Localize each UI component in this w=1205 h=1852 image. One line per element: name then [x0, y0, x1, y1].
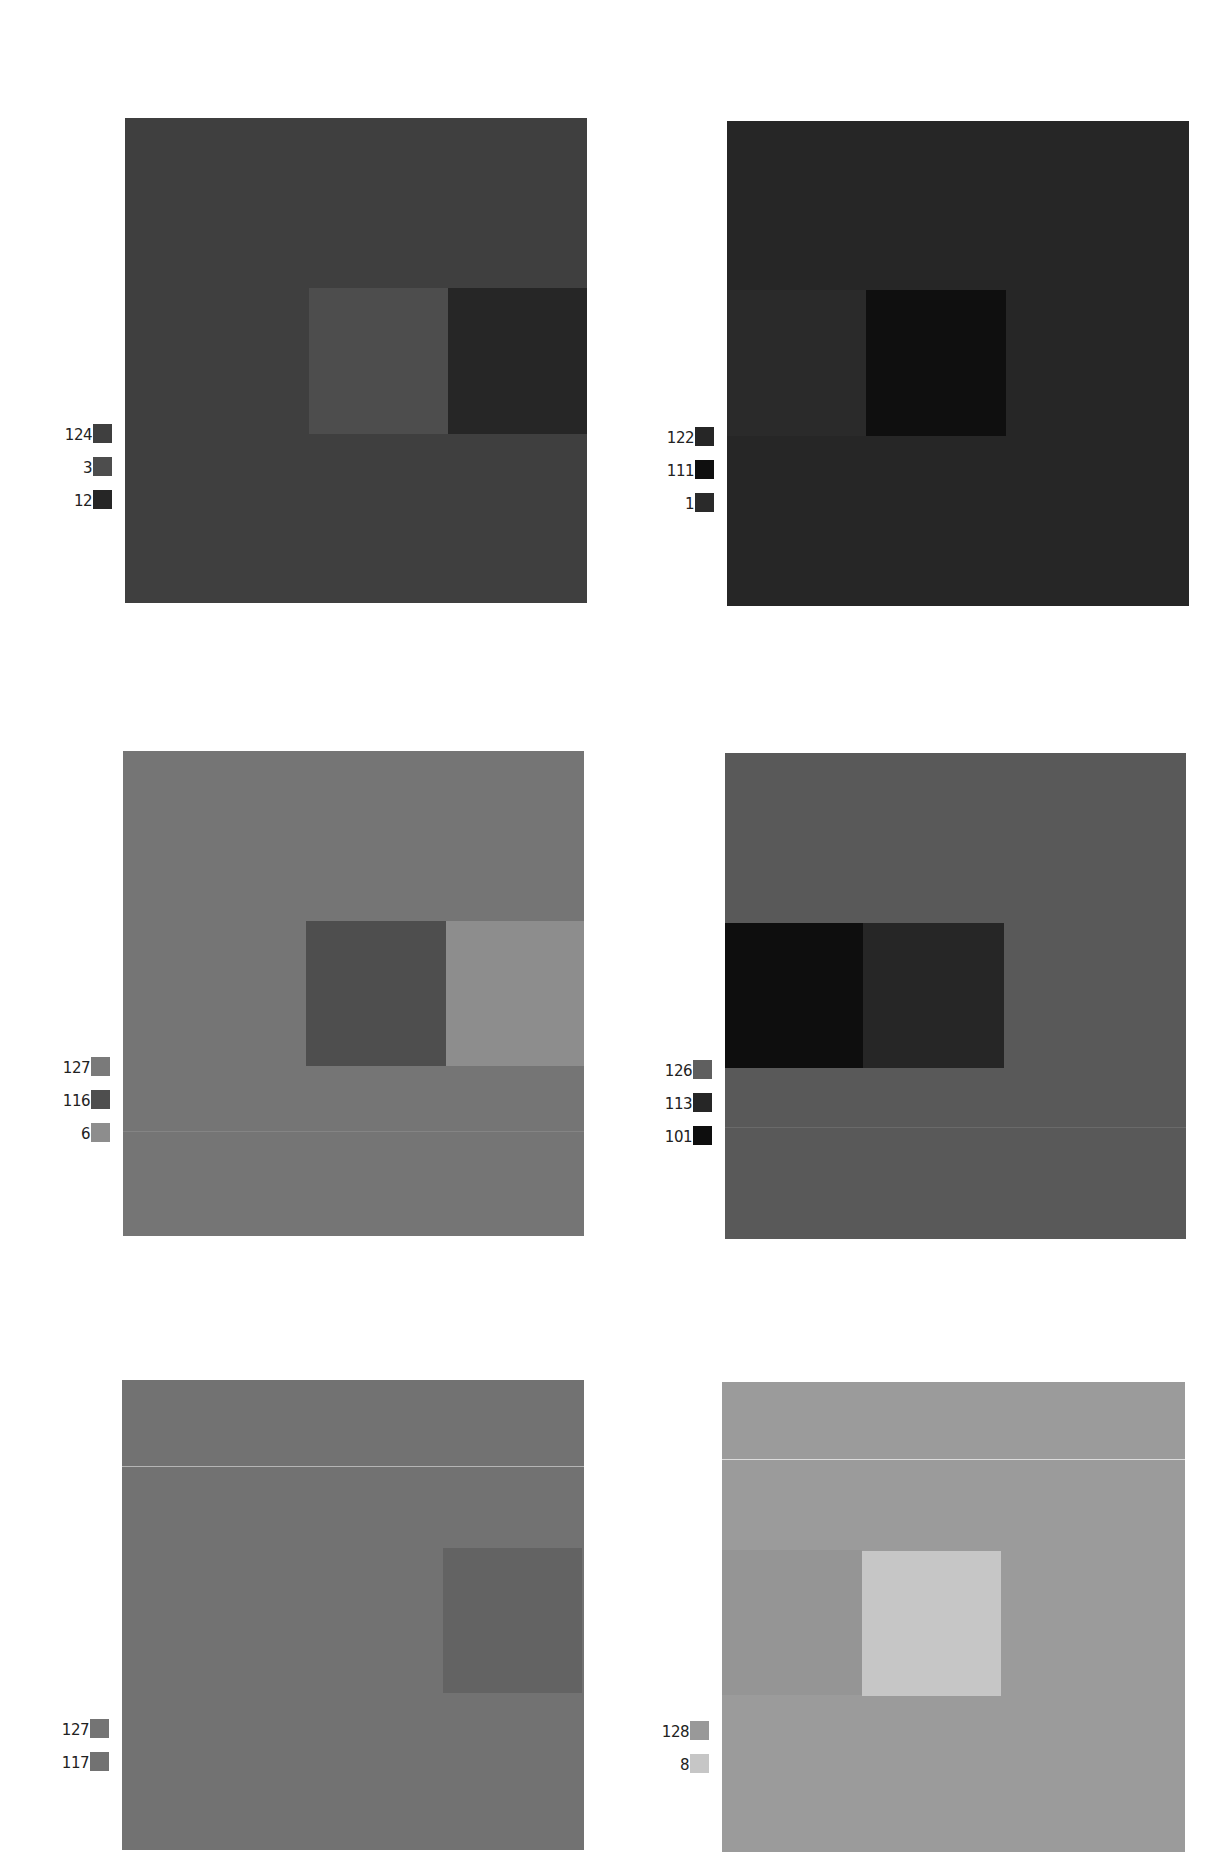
inner-square	[866, 290, 1006, 436]
legend-item: 116	[63, 1089, 110, 1109]
inner-square	[309, 288, 449, 434]
legend-label: 124	[65, 428, 92, 443]
legend-label: 8	[680, 1758, 689, 1773]
divider-line	[725, 1127, 1186, 1128]
divider-line	[122, 1466, 584, 1467]
color-swatch	[695, 460, 714, 479]
legend-label: 127	[62, 1723, 89, 1738]
color-swatch	[693, 1093, 712, 1112]
color-swatch	[93, 490, 112, 509]
legend-label: 1	[685, 497, 694, 512]
legend-label: 128	[662, 1725, 689, 1740]
color-swatch	[90, 1752, 109, 1771]
legend-item: 3	[83, 456, 112, 476]
legend-item: 126	[665, 1059, 712, 1079]
color-legend: 127117	[49, 1710, 109, 1776]
inner-square	[727, 290, 866, 436]
color-swatch	[690, 1721, 709, 1740]
color-legend: 126113101	[652, 1051, 712, 1150]
inner-square	[862, 1551, 1001, 1696]
legend-item: 122	[667, 426, 714, 446]
inner-square	[448, 288, 587, 434]
color-swatch	[690, 1754, 709, 1773]
color-swatch	[91, 1090, 110, 1109]
legend-item: 128	[662, 1720, 709, 1740]
legend-label: 113	[665, 1097, 692, 1112]
legend-label: 12	[74, 494, 92, 509]
inner-square	[722, 1550, 862, 1695]
legend-label: 3	[83, 461, 92, 476]
color-plate-bottom-left	[122, 1380, 584, 1850]
legend-item: 124	[65, 423, 112, 443]
inner-square	[863, 923, 1004, 1068]
legend-label: 101	[665, 1130, 692, 1145]
legend-item: 117	[62, 1751, 109, 1771]
color-plate-middle-left	[123, 751, 584, 1236]
color-swatch	[93, 424, 112, 443]
legend-item: 6	[81, 1122, 110, 1142]
inner-square	[446, 921, 584, 1066]
color-legend: 1221111	[654, 418, 714, 517]
legend-item: 12	[74, 489, 112, 509]
legend-item: 113	[665, 1092, 712, 1112]
color-swatch	[695, 493, 714, 512]
legend-label: 126	[665, 1064, 692, 1079]
legend-label: 116	[63, 1094, 90, 1109]
legend-label: 117	[62, 1756, 89, 1771]
color-legend: 124312	[52, 415, 112, 514]
inner-square	[725, 923, 863, 1068]
color-plate-bottom-right	[722, 1382, 1185, 1852]
color-swatch	[91, 1123, 110, 1142]
inner-square	[443, 1548, 582, 1693]
legend-label: 111	[667, 464, 694, 479]
color-swatch	[93, 457, 112, 476]
legend-item: 1	[685, 492, 714, 512]
color-legend: 1288	[649, 1712, 709, 1778]
color-swatch	[90, 1719, 109, 1738]
legend-item: 8	[680, 1753, 709, 1773]
legend-label: 6	[81, 1127, 90, 1142]
color-swatch	[693, 1060, 712, 1079]
color-plate-top-right	[727, 121, 1189, 606]
color-plate-top-left	[125, 118, 587, 603]
color-plate-middle-right	[725, 753, 1186, 1239]
legend-item: 127	[62, 1718, 109, 1738]
divider-line	[123, 1131, 584, 1132]
divider-line	[722, 1459, 1185, 1460]
legend-label: 122	[667, 431, 694, 446]
color-legend: 1271166	[50, 1048, 110, 1147]
legend-label: 127	[63, 1061, 90, 1076]
color-swatch	[91, 1057, 110, 1076]
color-swatch	[695, 427, 714, 446]
legend-item: 101	[665, 1125, 712, 1145]
legend-item: 111	[667, 459, 714, 479]
color-swatch	[693, 1126, 712, 1145]
legend-item: 127	[63, 1056, 110, 1076]
inner-square	[306, 921, 446, 1066]
